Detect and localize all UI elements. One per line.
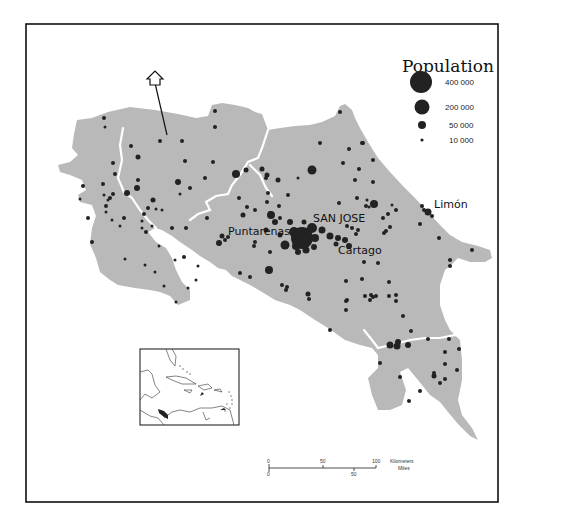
legend-symbol-400000 bbox=[410, 71, 432, 93]
legend-label: 200 000 bbox=[445, 103, 474, 112]
scale-mi-0: 0 bbox=[267, 471, 270, 477]
scale-bar: 0 50 100 Kilometers 0 50 Miles bbox=[267, 458, 414, 477]
scale-mi-50: 50 bbox=[351, 471, 357, 477]
costa-rica-landmass bbox=[58, 103, 492, 440]
scale-km-unit: Kilometers bbox=[390, 458, 414, 464]
city-label-puntarenas: Puntarenas bbox=[228, 225, 290, 238]
scale-mi-unit: Miles bbox=[398, 465, 410, 471]
inset-locator-map bbox=[140, 349, 239, 425]
legend-label: 10 000 bbox=[449, 136, 474, 145]
city-label-san-jose: SAN JOSE bbox=[313, 212, 365, 225]
scale-km-100: 100 bbox=[372, 458, 381, 464]
legend-label: 400 000 bbox=[445, 78, 474, 87]
scale-km-0: 0 bbox=[267, 458, 270, 464]
legend-symbol-50000 bbox=[418, 121, 426, 129]
legend-label: 50 000 bbox=[449, 121, 474, 130]
city-label-limon: Limón bbox=[434, 198, 468, 211]
population-legend: Population 400 000 200 000 50 000 10 000 bbox=[402, 56, 494, 145]
legend-symbol-10000 bbox=[420, 138, 423, 141]
scale-km-50: 50 bbox=[320, 458, 326, 464]
map: Population 400 000 200 000 50 000 10 000… bbox=[0, 0, 574, 523]
legend-symbol-200000 bbox=[415, 100, 430, 115]
city-label-cartago: Cartago bbox=[338, 244, 382, 257]
